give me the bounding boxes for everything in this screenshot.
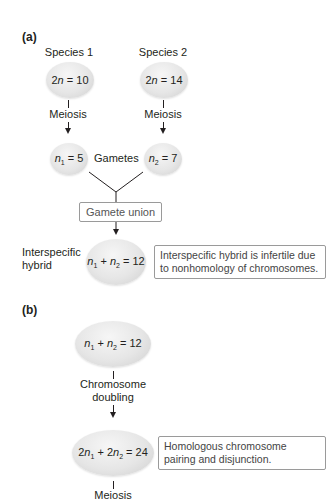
meiosis-line-b	[113, 481, 114, 489]
result-note: Homologous chromosome pairing and disjun…	[158, 436, 326, 470]
hybrid-cell: n1 + n2 = 12	[86, 239, 146, 285]
arrow-down-icon	[110, 412, 116, 418]
result-chromosomes: 2n1 + 2n2 = 24	[78, 446, 148, 460]
hybrid-chromosomes: n1 + n2 = 12	[87, 255, 144, 269]
hybrid-label-line-2: hybrid	[22, 259, 81, 272]
hybrid-label: Interspecific hybrid	[22, 246, 81, 272]
panel-b-label: (b)	[22, 303, 37, 317]
start-cell: n1 + n2 = 12	[75, 321, 151, 367]
doubling-label-line-1: Chromosome	[78, 378, 148, 391]
result-cell: 2n1 + 2n2 = 24	[72, 430, 154, 476]
arrow-down-icon	[113, 229, 119, 235]
doubling-label-line-2: doubling	[78, 391, 148, 404]
meiosis-label-b: Meiosis	[89, 489, 137, 501]
start-chromosomes: n1 + n2 = 12	[84, 337, 141, 351]
hybrid-note: Interspecific hybrid is infertile due to…	[154, 245, 326, 279]
doubling-label: Chromosome doubling	[78, 378, 148, 404]
hybrid-label-line-1: Interspecific	[22, 246, 81, 259]
gamete-union-box: Gamete union	[79, 202, 162, 222]
